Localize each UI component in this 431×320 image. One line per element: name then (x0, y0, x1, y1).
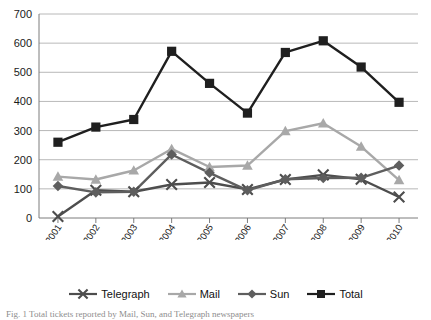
legend-item-telegraph[interactable]: Telegraph (68, 288, 149, 300)
data-point-sun (53, 181, 64, 192)
x-axis-tick-label: 2008-2009 (332, 222, 367, 240)
data-point-total (129, 115, 138, 124)
data-point-mail (128, 165, 139, 174)
x-axis-tick-label: 2005-2006 (219, 222, 254, 240)
x-axis-tick-label: 2003-2004 (143, 222, 178, 240)
chart-plot-area: 01002003004005006007002000-20012001-2002… (0, 0, 431, 240)
x-axis-tick-label: 2004-2005 (181, 222, 216, 240)
data-point-total (394, 98, 403, 107)
y-axis-tick-label: 0 (26, 212, 32, 224)
legend-label: Mail (200, 288, 220, 300)
x-axis-tick-label: 2001-2002 (67, 222, 102, 240)
y-axis-tick-label: 100 (14, 183, 32, 195)
legend-label: Sun (270, 288, 290, 300)
data-point-total (167, 47, 176, 56)
data-point-total (205, 79, 214, 88)
x-axis-tick-label: 2000-2001 (29, 222, 64, 240)
legend-marker-x-icon (68, 288, 98, 300)
series-line-mail (58, 123, 399, 180)
legend-marker-square-icon (306, 288, 336, 300)
legend-item-sun[interactable]: Sun (237, 288, 290, 300)
data-point-total (319, 36, 328, 45)
y-axis-tick-label: 700 (14, 8, 32, 20)
data-point-total (91, 122, 100, 131)
x-axis-tick-label: 2009-2010 (370, 222, 405, 240)
data-point-total (357, 62, 366, 71)
data-point-sun (394, 160, 405, 171)
x-axis-tick-label: 2007-2008 (294, 222, 329, 240)
legend-marker-diamond-icon (237, 288, 267, 300)
data-point-total (53, 138, 62, 147)
legend-item-mail[interactable]: Mail (167, 288, 220, 300)
legend-item-total[interactable]: Total (306, 288, 362, 300)
data-point-mail (356, 141, 367, 150)
legend-label: Telegraph (101, 288, 149, 300)
x-axis-tick-label: 2006-2007 (256, 222, 291, 240)
figure-caption: Fig. 1 Total tickets reported by Mail, S… (6, 309, 426, 319)
y-axis-tick-label: 400 (14, 95, 32, 107)
data-point-telegraph (394, 192, 405, 203)
data-point-total (243, 108, 252, 117)
y-axis-tick-label: 300 (14, 125, 32, 137)
data-point-total (281, 48, 290, 57)
chart-legend: TelegraphMailSunTotal (0, 283, 431, 305)
data-point-mail (318, 118, 329, 127)
line-chart: 01002003004005006007002000-20012001-2002… (0, 0, 431, 240)
legend-marker-triangle-icon (167, 288, 197, 300)
x-axis-tick-label: 2002-2003 (105, 222, 140, 240)
legend-label: Total (339, 288, 362, 300)
y-axis-tick-label: 600 (14, 37, 32, 49)
y-axis-tick-label: 200 (14, 154, 32, 166)
y-axis-tick-label: 500 (14, 66, 32, 78)
figure: 01002003004005006007002000-20012001-2002… (0, 0, 431, 320)
series-line-total (58, 41, 399, 142)
